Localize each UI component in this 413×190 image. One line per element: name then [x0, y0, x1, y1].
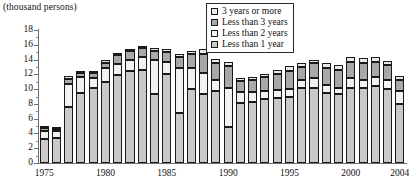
bar-column [395, 76, 404, 163]
bar-segment [224, 88, 233, 127]
bar-column [371, 57, 380, 163]
bar-segment [199, 54, 208, 73]
legend-item-label: Less than 2 years [222, 28, 288, 39]
bar-segment [125, 51, 134, 60]
x-axis-labels: 1975198019851990199520002004 [38, 168, 407, 186]
bar-column [52, 128, 61, 163]
y-axis-minor-tick [36, 156, 39, 157]
bar-segment [322, 68, 331, 86]
bar-column [162, 49, 171, 163]
bar-segment [162, 62, 171, 74]
bar-segment [371, 62, 380, 77]
bar-segment [199, 94, 208, 163]
bar-segment [199, 73, 208, 94]
y-axis-tick [34, 89, 38, 90]
bar-column [224, 62, 233, 163]
bar-segment [248, 80, 257, 93]
y-axis-minor-tick [36, 126, 39, 127]
bar-column [248, 77, 257, 163]
y-axis-minor-tick [36, 37, 39, 38]
bar-segment [211, 63, 220, 80]
y-axis-tick-label: 10 [24, 84, 34, 94]
bar-segment [248, 92, 257, 102]
bar-segment [40, 128, 49, 131]
bar-segment [346, 62, 355, 78]
legend-item[interactable]: Less than 2 years [211, 28, 288, 39]
bar-segment [285, 66, 294, 70]
bar-column [346, 57, 355, 163]
bar-segment [101, 82, 110, 163]
legend-item[interactable]: Less than 1 year [211, 39, 288, 50]
bar-segment [297, 67, 306, 80]
bar-column [76, 71, 85, 163]
bar-column [297, 63, 306, 163]
bar-segment [113, 53, 122, 55]
legend-swatch-icon [211, 8, 218, 15]
legend-item[interactable]: 3 years or more [211, 6, 288, 17]
bar-column [40, 126, 49, 163]
bar-segment [125, 60, 134, 70]
bar-segment [260, 91, 269, 100]
y-axis-tick-label: 12 [24, 69, 34, 79]
y-axis-tick-label: 2 [28, 143, 33, 153]
x-axis-line [38, 163, 407, 164]
bar-segment [334, 88, 343, 95]
bar-segment [138, 48, 147, 57]
bar-segment [52, 138, 61, 163]
bar-column [175, 54, 184, 163]
bar-segment [309, 60, 318, 64]
bar-segment [52, 131, 61, 138]
bar-segment [322, 63, 331, 67]
bar-segment [285, 71, 294, 89]
bar-segment [359, 80, 368, 89]
bar-segment [297, 88, 306, 163]
bar-segment [89, 78, 98, 88]
legend-item-label: Less than 3 years [222, 17, 288, 28]
bar-segment [273, 74, 282, 90]
legend-item[interactable]: Less than 3 years [211, 17, 288, 28]
bar-segment [101, 63, 110, 69]
bar-segment [260, 77, 269, 90]
bar-segment [236, 103, 245, 163]
y-axis-tick [34, 133, 38, 134]
bar-column [383, 61, 392, 163]
legend-swatch-icon [211, 41, 218, 48]
bar-segment [248, 77, 257, 80]
y-axis-minor-tick [36, 141, 39, 142]
bar-segment [76, 77, 85, 93]
bar-segment [101, 60, 110, 62]
bar-segment [101, 68, 110, 81]
bar-segment [113, 64, 122, 75]
y-axis-minor-tick [36, 82, 39, 83]
legend-item-label: 3 years or more [222, 6, 281, 17]
bar-segment [224, 66, 233, 87]
bar-segment [334, 65, 343, 69]
bar-segment [346, 78, 355, 88]
bar-segment [334, 94, 343, 163]
bar-segment [395, 104, 404, 163]
bar-segment [334, 70, 343, 88]
bar-segment [285, 97, 294, 164]
bar-segment [322, 85, 331, 92]
bar-segment [285, 89, 294, 96]
bar-segment [273, 90, 282, 98]
bar-segment [346, 88, 355, 163]
y-axis-tick [34, 148, 38, 149]
y-axis-minor-tick [36, 67, 39, 68]
bar-segment [125, 49, 134, 51]
x-axis-tick-label: 1975 [35, 168, 54, 179]
bar-segment [297, 63, 306, 67]
bar-column [150, 48, 159, 163]
x-axis-tick-label: 1990 [219, 168, 238, 179]
bar-segment [359, 88, 368, 163]
y-axis-tick [34, 119, 38, 120]
bar-segment [113, 75, 122, 163]
bar-column [113, 53, 122, 163]
y-axis-minor-tick [36, 52, 39, 53]
bar-column [101, 60, 110, 163]
x-axis-tick-label: 1985 [157, 168, 176, 179]
x-axis-tick-label: 2000 [341, 168, 360, 179]
bar-segment [395, 80, 404, 91]
bar-segment [40, 131, 49, 140]
chart-legend: 3 years or moreLess than 3 yearsLess tha… [206, 3, 294, 53]
